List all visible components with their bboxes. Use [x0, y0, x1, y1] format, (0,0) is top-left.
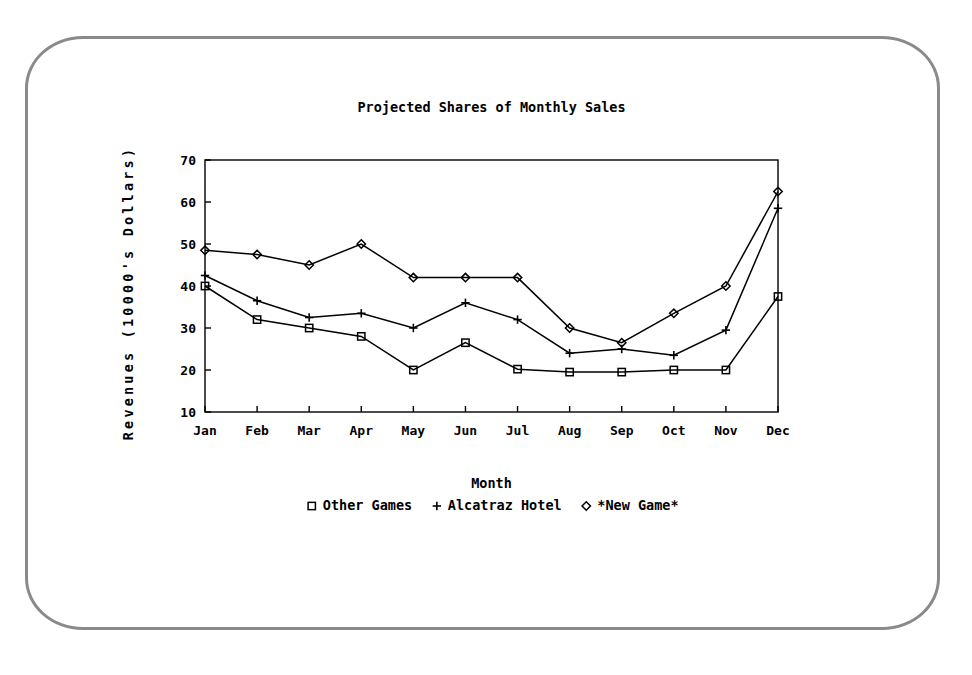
x-axis-tick-label: Aug — [558, 423, 581, 438]
data-point-marker-square — [308, 502, 315, 509]
legend-item-label: Other Games — [323, 497, 412, 513]
x-axis-label: Month — [471, 475, 512, 491]
data-point-marker-diamond — [582, 502, 590, 510]
y-axis-tick-label: 20 — [180, 363, 196, 378]
y-axis-tick-label: 70 — [180, 153, 196, 168]
legend-item-label: Alcatraz Hotel — [448, 497, 562, 513]
x-axis-tick-label: Mar — [297, 423, 321, 438]
x-axis-tick-label: Feb — [245, 423, 269, 438]
x-axis-tick-label: Apr — [350, 423, 374, 438]
x-axis-tick-label: Jan — [193, 423, 216, 438]
y-axis-tick-label: 50 — [180, 237, 196, 252]
series-line — [205, 208, 778, 355]
x-axis-tick-label: May — [402, 423, 426, 438]
x-axis-tick-label: Oct — [662, 423, 685, 438]
x-axis-tick-label: Nov — [714, 423, 738, 438]
series-line — [205, 192, 778, 343]
x-axis-tick-label: Dec — [766, 423, 789, 438]
x-axis-tick-label: Jun — [454, 423, 477, 438]
y-axis-tick-label: 60 — [180, 195, 196, 210]
legend-item-label: *New Game* — [597, 497, 678, 513]
y-axis-tick-label: 10 — [180, 405, 196, 420]
line-chart: 10203040506070JanFebMarAprMayJunJulAugSe… — [0, 0, 972, 675]
y-axis-tick-label: 30 — [180, 321, 196, 336]
x-axis-tick-label: Sep — [610, 423, 634, 438]
series-line — [205, 286, 778, 372]
y-axis-tick-label: 40 — [180, 279, 196, 294]
chart-title: Projected Shares of Monthly Sales — [357, 99, 625, 115]
y-axis-label: Revenues (10000's Dollars) — [120, 146, 136, 441]
plot-frame — [205, 160, 778, 412]
chart-canvas: 10203040506070JanFebMarAprMayJunJulAugSe… — [0, 0, 972, 675]
x-axis-tick-label: Jul — [506, 423, 529, 438]
